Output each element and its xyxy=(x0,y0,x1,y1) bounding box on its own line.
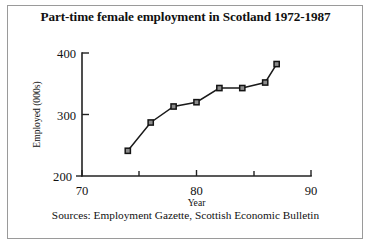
series-line xyxy=(128,64,277,151)
y-tick-label-400: 400 xyxy=(57,47,76,61)
data-point-86 xyxy=(263,80,268,85)
data-point-84 xyxy=(240,85,245,90)
data-point-82 xyxy=(217,85,222,90)
y-tick-label-300: 300 xyxy=(57,109,76,123)
x-tick-labels: 70 80 90 xyxy=(76,184,318,198)
data-point-76 xyxy=(148,120,153,125)
data-point-78 xyxy=(171,104,176,109)
data-point-74 xyxy=(125,148,130,153)
series-markers xyxy=(125,61,279,153)
x-tick-label-90: 90 xyxy=(305,184,318,198)
y-tick-label-200: 200 xyxy=(53,170,72,184)
data-point-80 xyxy=(194,100,199,105)
source-note: Sources: Employment Gazette, Scottish Ec… xyxy=(0,209,371,221)
x-axis-title: Year xyxy=(188,197,206,208)
x-tick-label-70: 70 xyxy=(76,184,89,198)
data-point-87 xyxy=(274,61,279,66)
y-tick-labels: 400 300 200 xyxy=(53,47,76,184)
y-axis-title: Employed (000s) xyxy=(31,81,43,147)
axes-group xyxy=(76,53,311,176)
x-tick-label-80: 80 xyxy=(190,184,203,198)
